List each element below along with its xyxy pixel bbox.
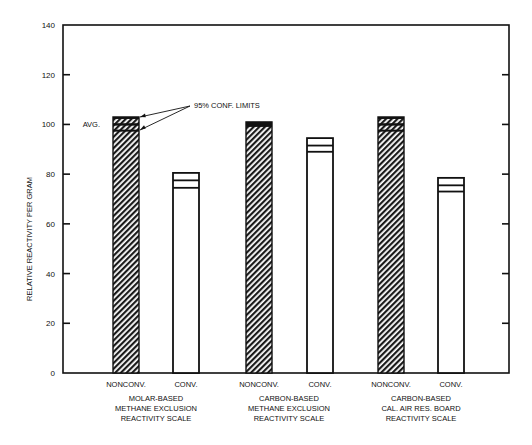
category-label: CONV. [308, 380, 331, 389]
y-tick-label: 0 [51, 369, 56, 378]
bars [113, 117, 464, 373]
y-tick-label: 140 [42, 21, 56, 30]
avg-line [378, 123, 404, 125]
bar-body [438, 178, 464, 373]
group-label: CAL. AIR RES. BOARD [381, 404, 461, 413]
bar-conv [438, 178, 464, 373]
arrowhead-lower [140, 125, 146, 130]
category-label: CONV. [174, 380, 197, 389]
arrow-upper [140, 106, 190, 117]
category-label: NONCONV. [371, 380, 411, 389]
bar-conv [173, 173, 199, 373]
category-label: NONCONV. [106, 380, 146, 389]
group-label: CARBON-BASED [259, 394, 320, 403]
y-tick-label: 20 [46, 319, 55, 328]
bar-nonconv [246, 122, 272, 373]
arrow-lower [140, 106, 190, 130]
category-label: CONV. [439, 380, 462, 389]
y-tick-label: 60 [46, 220, 55, 229]
bar-body [378, 117, 404, 373]
bar-nonconv [378, 117, 404, 373]
bar-conv [307, 138, 333, 373]
bar-body [113, 117, 139, 373]
y-tick-label: 40 [46, 270, 55, 279]
bar-chart: 020406080100120140RELATIVE REACTIVITY PE… [0, 0, 532, 445]
bar-body [307, 138, 333, 373]
group-label: METHANE EXCLUSION [248, 404, 330, 413]
ci-low-line [113, 130, 139, 132]
ci-top-line [113, 117, 139, 119]
group-label: MOLAR-BASED [129, 394, 184, 403]
group-label: REACTIVITY SCALE [254, 414, 325, 423]
conf-limits-annotation: 95% CONF. LIMITS [194, 101, 260, 110]
ci-low-line [378, 130, 404, 132]
group-label: REACTIVITY SCALE [121, 414, 192, 423]
y-axis-label: RELATIVE REACTIVITY PER GRAM [25, 177, 34, 301]
group-label: REACTIVITY SCALE [386, 414, 457, 423]
category-label: NONCONV. [239, 380, 279, 389]
group-label: METHANE EXCLUSION [115, 404, 197, 413]
bar-body [173, 173, 199, 373]
y-tick-label: 120 [42, 71, 56, 80]
avg-line [113, 123, 139, 125]
ci-top-line [378, 117, 404, 119]
bar-body [246, 122, 272, 373]
arrowhead-upper [140, 114, 146, 118]
y-tick-label: 80 [46, 170, 55, 179]
y-tick-label: 100 [42, 120, 56, 129]
ci-band [246, 122, 272, 127]
group-label: CARBON-BASED [391, 394, 452, 403]
avg-annotation: AVG. [83, 120, 100, 129]
bar-nonconv [113, 117, 139, 373]
